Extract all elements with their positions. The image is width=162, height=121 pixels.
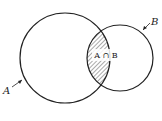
set-b-label: B [150,16,158,27]
set-a-label: A [2,85,10,96]
intersection-label: A ∩ B [93,51,118,60]
label-b-pointer [143,23,150,30]
venn-diagram: A ∩ B A B [0,0,162,121]
label-a-pointer [12,80,22,87]
